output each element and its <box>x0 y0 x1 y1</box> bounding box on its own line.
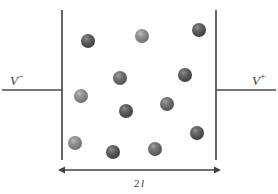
capacitor-diagram: V− V+ 2l <box>0 0 278 194</box>
dimension-label: 2l <box>134 177 144 189</box>
left-electrode-label: V− <box>10 71 24 88</box>
right-electrode-label: V+ <box>252 71 266 88</box>
particle <box>74 89 88 103</box>
particle <box>192 23 206 37</box>
right-electrode-sign: + <box>260 71 266 82</box>
particle <box>68 136 82 150</box>
particle-group <box>68 23 206 159</box>
figure-canvas: V− V+ 2l <box>0 0 278 194</box>
particle <box>81 34 95 48</box>
particle <box>135 29 149 43</box>
dimension-number: 2 <box>134 177 140 189</box>
particle <box>178 68 192 82</box>
particle <box>190 126 204 140</box>
particle <box>119 104 133 118</box>
particle <box>113 71 127 85</box>
particle <box>160 97 174 111</box>
particle <box>106 145 120 159</box>
particle <box>148 142 162 156</box>
dimension-symbol: l <box>141 177 144 189</box>
left-electrode-sign: − <box>18 71 24 82</box>
